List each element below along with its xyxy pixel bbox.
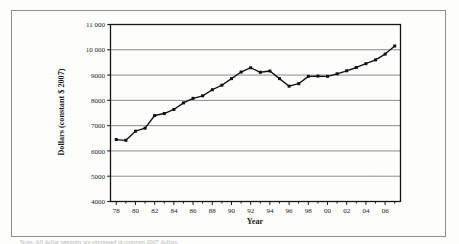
y-tick-label: 8000	[91, 97, 106, 105]
x-tick-label: 86	[190, 207, 198, 215]
data-point	[278, 77, 281, 80]
y-tick-label: 11 000	[86, 21, 105, 29]
data-point	[201, 94, 204, 97]
data-point	[211, 88, 214, 91]
x-axis-title: Year	[247, 217, 264, 226]
y-tick-label: 6000	[91, 148, 106, 156]
y-axis-tick-labels: 40005000600070008000900010 00011 000	[86, 21, 106, 206]
y-tick-label: 10 000	[86, 46, 106, 54]
x-tick-label: 80	[132, 207, 140, 215]
data-point	[355, 66, 358, 69]
figure-page: 40005000600070008000900010 00011 000 788…	[0, 0, 459, 244]
x-tick-label: 06	[382, 207, 390, 215]
gridlines	[111, 25, 401, 177]
x-tick-label: 82	[151, 207, 159, 215]
y-tick-label: 7000	[91, 122, 106, 130]
data-point	[134, 130, 137, 133]
data-point	[393, 44, 396, 47]
data-point	[345, 69, 348, 72]
data-point	[220, 84, 223, 87]
data-point	[144, 127, 147, 130]
y-tick-label: 9000	[91, 72, 106, 80]
data-point	[384, 53, 387, 56]
line-chart: 40005000600070008000900010 00011 000 788…	[0, 0, 459, 244]
data-point	[240, 71, 243, 74]
data-point	[163, 112, 166, 115]
data-point	[336, 72, 339, 75]
data-point	[153, 114, 156, 117]
series-line	[116, 46, 394, 140]
data-line	[116, 46, 394, 140]
data-point	[374, 58, 377, 61]
data-point	[249, 66, 252, 69]
data-point	[307, 75, 310, 78]
x-tick-label: 02	[343, 207, 351, 215]
x-tick-label: 96	[286, 207, 294, 215]
x-tick-label: 92	[247, 207, 255, 215]
data-point	[115, 138, 118, 141]
data-point	[230, 77, 233, 80]
data-point	[172, 108, 175, 111]
data-point	[192, 97, 195, 100]
data-point	[182, 101, 185, 104]
data-point-markers	[115, 44, 396, 141]
x-tick-label: 78	[113, 207, 121, 215]
x-tick-label: 00	[324, 207, 332, 215]
x-tick-label: 04	[362, 207, 370, 215]
x-tick-label: 84	[170, 207, 178, 215]
figure-caption-fragment: Note: All dollar amounts are expressed i…	[20, 238, 320, 244]
data-point	[124, 139, 127, 142]
data-point	[297, 82, 300, 85]
x-tick-label: 94	[266, 207, 274, 215]
plot-frame	[111, 25, 401, 202]
plot-area-frame	[111, 25, 401, 202]
x-tick-label: 90	[228, 207, 236, 215]
data-point	[326, 75, 329, 78]
y-tick-label: 5000	[91, 173, 106, 181]
x-axis-tick-labels: 788082848688909294969800020406	[113, 207, 389, 215]
y-tick-label: 4000	[91, 198, 106, 206]
x-tick-label: 98	[305, 207, 313, 215]
data-point	[316, 75, 319, 78]
data-point	[364, 62, 367, 65]
data-point	[268, 70, 271, 73]
data-point	[288, 85, 291, 88]
data-point	[259, 71, 262, 74]
y-axis-title: Dollars (constant $ 2007)	[57, 68, 66, 155]
chart-svg: 40005000600070008000900010 00011 000 788…	[0, 0, 459, 244]
x-tick-label: 88	[209, 207, 217, 215]
